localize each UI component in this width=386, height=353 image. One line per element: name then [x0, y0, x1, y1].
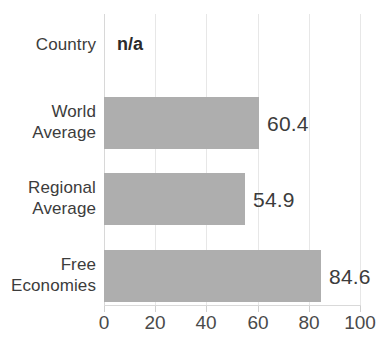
row-label-regional-average: Regional Average [0, 177, 96, 219]
row-label-country: Country [0, 34, 96, 55]
row-label-free-economies: Free Economies [0, 254, 96, 296]
bar-free-economies [104, 250, 321, 302]
xtick-label-0: 0 [99, 312, 110, 334]
row-label-line: Free [0, 254, 96, 275]
xtick-label-60: 60 [247, 312, 268, 334]
row-label-world-average: World Average [0, 101, 96, 143]
xtick-label-20: 20 [144, 312, 165, 334]
bar-regional-average [104, 173, 245, 225]
row-label-line: Regional [0, 177, 96, 198]
xtick-label-100: 100 [344, 312, 376, 334]
xtick-label-40: 40 [195, 312, 216, 334]
bar-value-free-economies: 84.6 [329, 266, 371, 287]
row-label-line: World [0, 101, 96, 122]
row-label-line: Average [0, 122, 96, 143]
x-axis-line [104, 305, 361, 306]
xtick-label-80: 80 [298, 312, 319, 334]
row-value-country: n/a [117, 34, 143, 55]
row-label-line: Country [0, 34, 96, 55]
bar-chart: Country n/a World Average 60.4 Regional … [0, 0, 386, 353]
bar-value-world-average: 60.4 [267, 113, 309, 134]
bar-world-average [104, 97, 259, 149]
row-label-line: Economies [0, 275, 96, 296]
row-label-line: Average [0, 198, 96, 219]
bar-value-regional-average: 54.9 [253, 189, 295, 210]
gridline-100 [360, 14, 361, 306]
